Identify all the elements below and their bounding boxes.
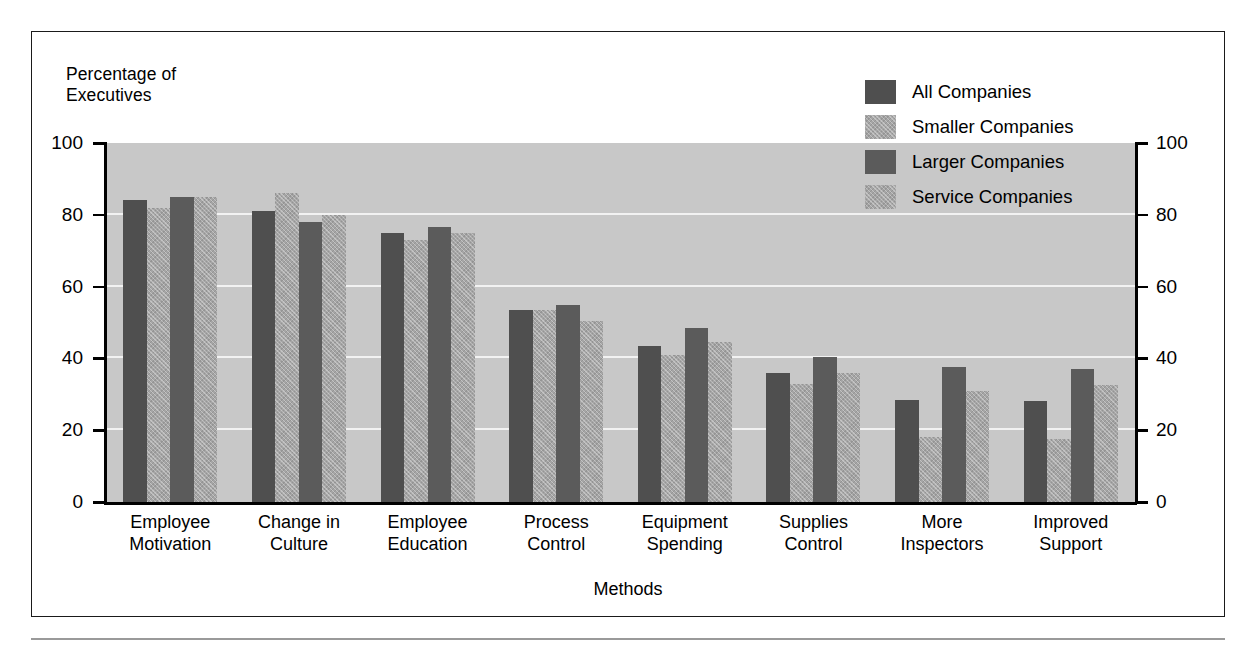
bar-group [363,143,492,502]
legend-label: Service Companies [912,186,1072,208]
y-axis-tick-label-left: 100 [23,133,83,152]
y-axis-tick-label-right: 40 [1156,348,1216,367]
bar-group [621,143,750,502]
y-axis-tick-label-right: 0 [1156,492,1216,511]
y-axis-tick-label-left: 40 [23,348,83,367]
bar[interactable] [252,211,276,502]
bar[interactable] [147,208,171,502]
bar[interactable] [428,227,452,502]
bar[interactable] [381,233,405,502]
bar-group [492,143,621,502]
y-axis-tick-label-right: 20 [1156,420,1216,439]
legend-item[interactable]: Larger Companies [865,144,1073,179]
bar[interactable] [966,391,990,502]
bar[interactable] [837,373,861,502]
legend-label: Smaller Companies [912,116,1073,138]
bar[interactable] [580,321,604,502]
bar[interactable] [708,342,732,502]
bar[interactable] [322,215,346,502]
x-axis-title: Methods [32,579,1224,600]
legend-swatch [865,115,896,139]
bar[interactable] [685,328,709,502]
bar[interactable] [194,197,218,502]
legend-swatch [865,185,896,209]
y-axis-tick-label-left: 60 [23,277,83,296]
chart-legend: All CompaniesSmaller CompaniesLarger Com… [865,74,1073,214]
x-axis-tick-label: More Inspectors [878,511,1007,555]
y-axis-tick-left [93,429,104,432]
legend-swatch [865,150,896,174]
legend-label: All Companies [912,81,1031,103]
legend-label: Larger Companies [912,151,1064,173]
bar[interactable] [1094,385,1118,502]
bar[interactable] [275,193,299,502]
y-axis-tick-left [93,142,104,145]
x-axis-tick-label: Supplies Control [749,511,878,555]
y-axis-tick-label-right: 80 [1156,205,1216,224]
y-axis-tick-label-right: 60 [1156,277,1216,296]
y-axis-tick-label-left: 20 [23,420,83,439]
y-axis-tick-left [93,214,104,217]
bar[interactable] [919,437,943,502]
y-axis-tick-label-left: 80 [23,205,83,224]
x-axis-tick-label: Equipment Spending [621,511,750,555]
bar[interactable] [404,240,428,502]
bar[interactable] [123,200,147,502]
y-axis-tick-right [1137,214,1148,217]
bar[interactable] [451,233,475,502]
y-axis-tick-right [1137,357,1148,360]
y-axis-right-spine [1135,142,1138,503]
y-axis-tick-right [1137,142,1148,145]
y-axis-tick-left [93,357,104,360]
x-axis-tick-label: Employee Education [363,511,492,555]
legend-swatch [865,80,896,104]
x-axis-tick-label: Process Control [492,511,621,555]
bar[interactable] [766,373,790,502]
y-axis-tick-label-right: 100 [1156,133,1216,152]
bar[interactable] [638,346,662,502]
y-axis-tick-left [93,286,104,289]
bar[interactable] [813,357,837,502]
bar[interactable] [533,310,557,502]
bar[interactable] [170,197,194,502]
y-axis-tick-label-left: 0 [23,492,83,511]
bar-group [749,143,878,502]
figure-frame: Percentage of Executives 002020404060608… [31,31,1225,617]
y-axis-tick-right [1137,501,1148,504]
y-axis-left-spine [104,142,107,503]
legend-item[interactable]: Service Companies [865,179,1073,214]
bar-group [106,143,235,502]
bar[interactable] [790,384,814,502]
bar[interactable] [661,355,685,502]
x-axis-tick-label: Change in Culture [235,511,364,555]
bar[interactable] [556,305,580,502]
x-axis-spine [104,502,1137,505]
y-axis-tick-left [93,501,104,504]
y-axis-tick-right [1137,429,1148,432]
bar-group [235,143,364,502]
bar[interactable] [1047,439,1071,502]
bar[interactable] [509,310,533,502]
legend-item[interactable]: Smaller Companies [865,109,1073,144]
x-axis-tick-label: Improved Support [1006,511,1135,555]
bar[interactable] [942,367,966,502]
y-axis-title: Percentage of Executives [66,64,176,106]
x-axis-tick-label: Employee Motivation [106,511,235,555]
bar[interactable] [1071,369,1095,502]
footer-rule [31,638,1225,640]
y-axis-tick-right [1137,286,1148,289]
bar[interactable] [1024,401,1048,502]
bar[interactable] [299,222,323,502]
bar[interactable] [895,400,919,502]
legend-item[interactable]: All Companies [865,74,1073,109]
